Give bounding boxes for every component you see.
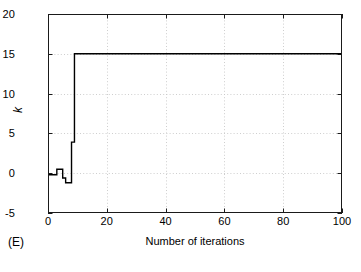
- x-tick-label: 40: [159, 216, 171, 227]
- x-tick-label: 80: [277, 216, 289, 227]
- data-series-layer: [48, 14, 342, 213]
- y-tick-label: 0: [9, 168, 15, 179]
- y-tick-label: -5: [5, 208, 15, 219]
- y-tick-label: 20: [3, 9, 15, 20]
- y-tick-label: 10: [3, 88, 15, 99]
- y-tick-label: 15: [3, 48, 15, 59]
- x-tick-label: 100: [333, 216, 352, 227]
- panel-caption: (E): [8, 236, 24, 248]
- x-axis-label: Number of iterations: [48, 236, 342, 247]
- x-tick-label: 20: [101, 216, 113, 227]
- y-tick-label: 5: [9, 128, 15, 139]
- series-k-line: [48, 14, 342, 213]
- chart-figure: 20 15 10 5 0 -5 0 20 40 60 80 100 Number…: [0, 0, 361, 272]
- plot-area: [48, 14, 342, 213]
- x-tick-label: 60: [218, 216, 230, 227]
- x-tick-label: 0: [45, 216, 51, 227]
- y-axis-label: k: [12, 107, 24, 113]
